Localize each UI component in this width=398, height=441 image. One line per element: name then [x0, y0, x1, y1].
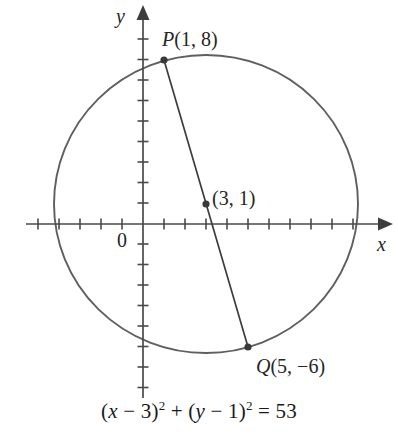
x-axis-arrowhead	[378, 218, 393, 231]
y-axis-label: y	[116, 6, 125, 26]
point-marker-q	[244, 343, 251, 350]
point-marker-center	[202, 200, 209, 207]
equation-plus: +	[165, 399, 188, 423]
equation-exponent-2: 2	[246, 398, 253, 413]
equation-term-2: − 1)	[205, 399, 246, 423]
equation-equals-rhs: = 53	[253, 399, 297, 423]
point-label-p-name: P	[162, 28, 174, 50]
point-label-q-name: Q	[256, 355, 270, 377]
point-marker-p	[160, 56, 167, 63]
equation-open-paren-2: (	[188, 399, 195, 423]
point-label-center-coords: (3, 1)	[212, 187, 255, 209]
point-label-p-coords: (1, 8)	[174, 28, 217, 50]
origin-label: 0	[117, 230, 127, 250]
equation-term-1: − 3)	[118, 399, 159, 423]
x-axis-label: x	[377, 234, 386, 254]
point-label-center: (3, 1)	[212, 188, 255, 208]
equation-var-y: y	[196, 399, 206, 423]
point-label-q-coords: (5, −6)	[270, 355, 325, 377]
y-axis-arrowhead	[137, 5, 150, 20]
circle-equation: (x − 3)2 + (y − 1)2 = 53	[0, 398, 398, 424]
point-label-p: P(1, 8)	[162, 29, 218, 49]
equation-var-x: x	[108, 399, 118, 423]
circle-diagram-canvas	[0, 0, 398, 441]
point-label-q: Q(5, −6)	[256, 356, 325, 376]
